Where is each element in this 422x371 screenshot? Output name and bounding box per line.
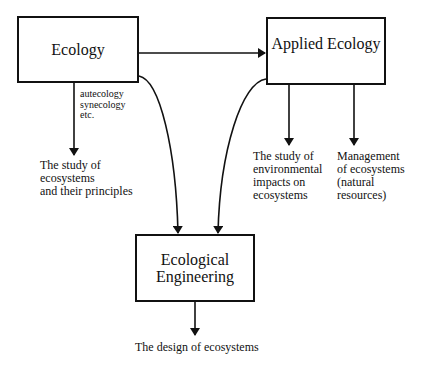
ecology-subfields-note: autecology synecology etc. bbox=[80, 89, 126, 121]
node-ecological-engineering: Ecological Engineering bbox=[135, 234, 255, 302]
node-ecology-label: Ecology bbox=[51, 41, 104, 58]
node-applied-ecology-label: Applied Ecology bbox=[272, 35, 381, 52]
node-applied-ecology: Applied Ecology bbox=[266, 17, 386, 85]
applied-output-management-note: Management of ecosystems (natural resour… bbox=[337, 150, 405, 202]
arrow-ecology-to-engineering bbox=[139, 76, 178, 233]
node-ecology: Ecology bbox=[17, 16, 139, 83]
engineering-output-note: The design of ecosystems bbox=[135, 341, 259, 354]
ecology-output-note: The study of ecosystems and their princi… bbox=[40, 159, 133, 198]
applied-output-impacts-note: The study of environmental impacts on ec… bbox=[253, 150, 322, 202]
node-ecological-engineering-label: Ecological Engineering bbox=[156, 251, 234, 285]
